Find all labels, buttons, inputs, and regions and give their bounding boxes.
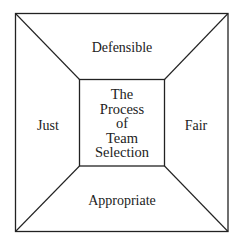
label-right: Fair (172, 118, 220, 134)
center-title: The Process of Team Selection (80, 87, 164, 160)
diagonal-top-right (165, 14, 229, 80)
center-line-2: Process (80, 102, 164, 117)
label-left: Just (26, 118, 70, 134)
center-line-4: Team (80, 131, 164, 146)
label-bottom: Appropriate (70, 193, 174, 209)
center-line-1: The (80, 87, 164, 102)
center-line-5: Selection (80, 145, 164, 160)
label-top: Defensible (70, 40, 174, 56)
center-line-3: of (80, 116, 164, 131)
diagonal-bottom-right (165, 166, 229, 232)
